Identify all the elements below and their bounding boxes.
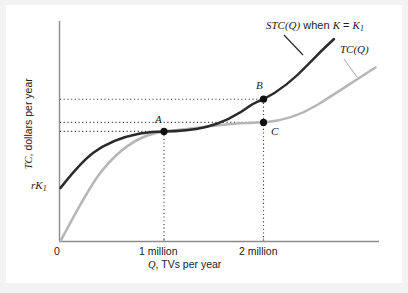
data-point-label-a: A [155, 114, 162, 125]
figure-root: TC, dollars per year Q, TVs per year 0 1… [0, 0, 408, 293]
y-axis-title-variable: TC [23, 156, 34, 169]
stc-label-leader-line [284, 35, 303, 55]
x-tick-label-one-million: 1 million [139, 246, 178, 257]
stc-curve [61, 39, 335, 188]
y-axis-title-unit: , dollars per year [22, 78, 34, 156]
stc-curve-label-equals: = [340, 19, 353, 31]
stc-intercept-label-subscript: 1 [43, 184, 47, 193]
data-point-label-b: B [256, 80, 263, 91]
stc-intercept-label: rK1 [31, 180, 47, 191]
tc-curve [61, 68, 376, 242]
data-point-label-c: C [271, 126, 278, 137]
label-leader-lines [284, 35, 357, 77]
x-tick-label-two-million: 2 million [239, 246, 278, 257]
x-axis-title-variable: Q [148, 259, 156, 270]
axis-lines [59, 21, 379, 242]
stc-intercept-label-text: rK [31, 179, 43, 191]
stc-curve-label: STC(Q) when K = K1 [266, 20, 364, 31]
tc-curve-label: TC(Q) [340, 44, 369, 55]
stc-curve-label-function: STC(Q) [266, 19, 300, 31]
x-tick-label-origin: 0 [54, 246, 60, 257]
stc-curve-label-capital-var2: K [353, 19, 360, 31]
tc-label-leader-line [344, 59, 357, 77]
stc-curve-label-subscript: 1 [360, 24, 364, 33]
stc-curve-label-connector: when [300, 19, 332, 31]
stc-curve-label-capital-var: K [333, 19, 340, 31]
data-point-a [160, 128, 167, 135]
x-axis-title-unit: , TVs per year [156, 258, 222, 270]
data-point-c [260, 119, 267, 126]
data-point-b [260, 96, 267, 103]
x-axis-title: Q, TVs per year [148, 259, 221, 271]
y-axis-title: TC, dollars per year [23, 64, 35, 184]
